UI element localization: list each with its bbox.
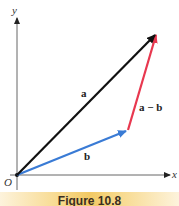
figure-caption: Figure 10.8 — [58, 195, 121, 206]
figure-caption-bar: Figure 10.8 — [0, 192, 179, 206]
vector-b — [17, 131, 126, 175]
vector-b-label: b — [84, 150, 90, 162]
vector-diagram: x y O a b a − b — [0, 0, 179, 206]
y-axis-label: y — [11, 4, 17, 16]
vector-a-minus-b-label: a − b — [139, 101, 162, 113]
vector-a-label: a — [81, 87, 87, 99]
x-axis-label: x — [171, 168, 177, 180]
origin-label: O — [4, 176, 12, 188]
